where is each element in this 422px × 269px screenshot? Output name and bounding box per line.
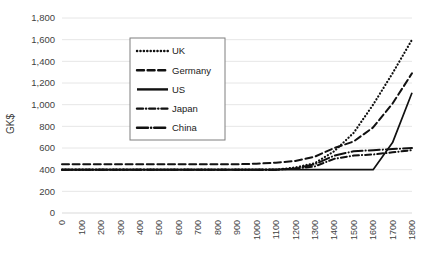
x-tick-label: 1800 [407, 220, 417, 240]
x-tick-label: 300 [116, 220, 126, 235]
line-chart: 02004006008001,0001,2001,4001,6001,800 0… [0, 0, 422, 269]
series-line-china [62, 148, 412, 170]
legend-label-japan: Japan [172, 103, 198, 114]
x-tick-label: 1300 [310, 220, 320, 240]
chart-canvas: 02004006008001,0001,2001,4001,6001,800 0… [0, 0, 422, 269]
x-tick-label: 900 [232, 220, 242, 235]
x-tick-label: 0 [57, 220, 67, 225]
x-tick-label: 100 [77, 220, 87, 235]
x-tick-label: 1500 [349, 220, 359, 240]
y-tick-label: 200 [39, 186, 55, 197]
y-tick-label: 1,400 [31, 56, 55, 67]
x-tick-label: 500 [154, 220, 164, 235]
x-tick-label: 1200 [291, 220, 301, 240]
y-tick-label: 0 [50, 207, 55, 218]
x-tick-label: 800 [213, 220, 223, 235]
legend-label-germany: Germany [172, 65, 211, 76]
y-tick-label: 1,200 [31, 77, 55, 88]
legend-label-china: China [172, 122, 198, 133]
y-tick-label: 1,000 [31, 99, 55, 110]
y-tick-label: 800 [39, 121, 55, 132]
y-tick-label: 400 [39, 164, 55, 175]
y-tick-label: 1,800 [31, 12, 55, 23]
x-tick-label: 1700 [388, 220, 398, 240]
x-tick-label: 1000 [252, 220, 262, 240]
series-line-japan [62, 150, 412, 170]
x-tick-label: 600 [174, 220, 184, 235]
chart-legend: UKGermanyUSJapanChina [130, 38, 225, 140]
x-tick-label: 700 [193, 220, 203, 235]
x-tick-label: 1600 [368, 220, 378, 240]
y-tick-label: 600 [39, 142, 55, 153]
x-tick-label: 200 [96, 220, 106, 235]
gridlines [62, 18, 412, 213]
y-axis-tick-labels: 02004006008001,0001,2001,4001,6001,800 [31, 12, 55, 218]
y-tick-label: 1,600 [31, 34, 55, 45]
x-tick-label: 1100 [271, 220, 281, 239]
x-axis-tick-labels: 0100200300400500600700800900100011001200… [57, 220, 417, 240]
legend-label-us: US [172, 84, 185, 95]
y-axis-title: GK$ [5, 114, 16, 134]
legend-label-uk: UK [172, 45, 186, 56]
x-tick-label: 1400 [329, 220, 339, 240]
x-tick-label: 400 [135, 220, 145, 235]
